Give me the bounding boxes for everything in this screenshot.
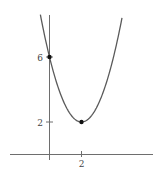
y-intercept-point (47, 55, 51, 59)
x-tick-label-2: 2 (79, 159, 85, 169)
vertex-point (79, 120, 83, 124)
parabola-curve (40, 15, 122, 122)
y-tick-label-6: 6 (37, 53, 43, 63)
y-tick-label-2: 2 (37, 118, 43, 128)
parabola-chart: 2 6 2 (0, 0, 159, 173)
